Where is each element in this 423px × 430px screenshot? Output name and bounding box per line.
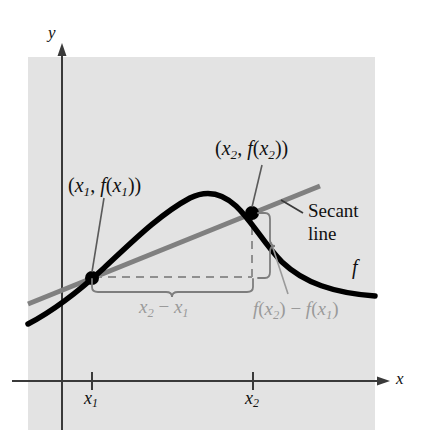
- p2-fx: x: [259, 137, 268, 159]
- label-secant-line: Secant line: [308, 199, 359, 245]
- x2-main: x: [245, 388, 253, 408]
- dx-minus: −: [154, 296, 174, 317]
- dy-a: x: [265, 298, 273, 319]
- dy-c2: ): [332, 298, 338, 319]
- x1-sub: 1: [92, 396, 98, 410]
- p2-open: (: [215, 137, 222, 159]
- p1-comma: ,: [90, 174, 100, 196]
- point-marker-x2: [245, 206, 259, 220]
- secant-word-2: line: [308, 222, 359, 245]
- x1-main: x: [84, 388, 92, 408]
- label-function-f: f: [352, 257, 358, 277]
- p1-close: )): [128, 174, 141, 196]
- dx-b-sub: 1: [182, 306, 188, 320]
- x2-sub: 2: [253, 396, 259, 410]
- figure-canvas: [0, 0, 423, 430]
- p1-fx: x: [112, 174, 121, 196]
- x-axis-label: x: [396, 370, 404, 387]
- dy-b: x: [317, 298, 325, 319]
- tick-label-x1: x1: [84, 389, 98, 410]
- p2-x: x: [222, 137, 231, 159]
- label-delta-y: f(x2) − f(x1): [253, 299, 339, 321]
- p1-fx-sub: 1: [121, 184, 128, 199]
- label-point-2: (x2, f(x2)): [215, 138, 288, 161]
- dy-minus: −: [286, 298, 306, 319]
- secant-word-1: Secant: [308, 199, 359, 222]
- secant-line-figure: (x1, f(x1)) (x2, f(x2)) Secant line f x2…: [0, 0, 423, 430]
- p1-open: (: [68, 174, 75, 196]
- label-point-1: (x1, f(x1)): [68, 175, 141, 198]
- label-delta-x: x2 − x1: [139, 297, 189, 319]
- tick-label-x2: x2: [245, 389, 259, 410]
- p2-fx-sub: 2: [268, 147, 275, 162]
- p2-comma: ,: [237, 137, 247, 159]
- p2-close: )): [275, 137, 288, 159]
- p1-x: x: [75, 174, 84, 196]
- y-axis-label: y: [48, 24, 56, 41]
